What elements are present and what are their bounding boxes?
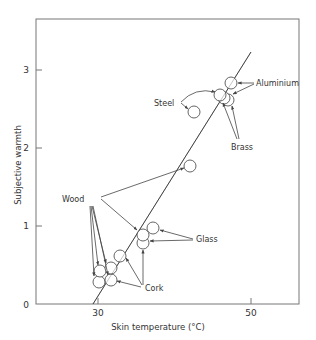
label-aluminium: Aluminium: [256, 79, 299, 88]
y-tick-1: 1: [23, 221, 29, 231]
y-tick-0: 0: [23, 300, 29, 310]
y-axis-label: Subjective warmth: [13, 125, 23, 205]
x-tick-50: 50: [245, 308, 257, 318]
label-wood: Wood: [62, 195, 84, 204]
data-point: [93, 276, 105, 288]
y-tick-2: 2: [23, 143, 29, 153]
plot-frame: [36, 19, 299, 304]
data-point: [225, 77, 237, 89]
x-tick-30: 30: [92, 308, 104, 318]
scatter-plot: 0 1 2 3 30 50 Skin temperature (°C) Subj…: [0, 0, 316, 340]
chart-container: 0 1 2 3 30 50 Skin temperature (°C) Subj…: [0, 0, 316, 340]
label-cork: Cork: [145, 284, 164, 293]
label-steel: Steel: [154, 99, 174, 108]
label-glass: Glass: [196, 235, 218, 244]
data-point: [114, 250, 126, 262]
data-point: [188, 106, 200, 118]
y-tick-3: 3: [23, 65, 29, 75]
label-brass: Brass: [231, 143, 253, 152]
axis-ticks: [36, 70, 251, 304]
data-point: [184, 160, 196, 172]
data-point: [94, 265, 106, 277]
x-axis-label: Skin temperature (°C): [111, 322, 205, 332]
data-point: [147, 222, 159, 234]
